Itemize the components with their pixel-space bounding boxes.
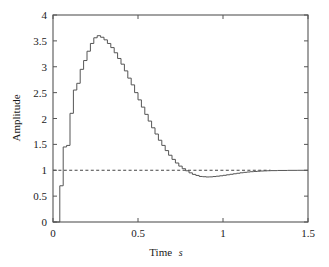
plot-area-background <box>53 15 308 222</box>
x-axis-title-unit: s <box>179 247 183 258</box>
x-tick-labels: 00.511.5 <box>50 227 315 239</box>
y-tick-label: 1.5 <box>33 138 47 150</box>
y-tick-label: 0 <box>42 216 48 228</box>
y-tick-label: 1 <box>42 164 48 176</box>
x-axis-title-text: Time <box>149 246 172 258</box>
y-tick-label: 4 <box>42 9 48 21</box>
x-tick-label: 1.5 <box>301 227 315 239</box>
y-tick-labels: 00.511.522.533.54 <box>33 9 47 228</box>
x-tick-label: 1 <box>220 227 226 239</box>
step-response-chart: 00.511.522.533.54 00.511.5 Amplitude Tim… <box>0 0 329 267</box>
y-tick-label: 3 <box>42 61 48 73</box>
y-axis-title: Amplitude <box>10 94 22 141</box>
x-axis-title: Time s <box>149 246 183 258</box>
chart-figure: 00.511.522.533.54 00.511.5 Amplitude Tim… <box>0 0 329 267</box>
x-tick-label: 0.5 <box>131 227 145 239</box>
y-tick-label: 2 <box>42 113 48 125</box>
x-tick-label: 0 <box>50 227 56 239</box>
y-tick-label: 3.5 <box>33 35 47 47</box>
y-tick-label: 2.5 <box>33 87 47 99</box>
y-tick-label: 0.5 <box>33 190 47 202</box>
